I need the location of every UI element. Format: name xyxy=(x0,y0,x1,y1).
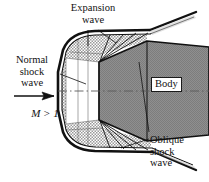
label-oblique-shock-line3: wave xyxy=(150,157,208,169)
label-oblique-shock-wave: Oblique shock wave xyxy=(150,134,208,169)
label-body: Body xyxy=(151,77,182,92)
label-mach-number: M > 1 xyxy=(22,108,68,120)
label-normal-shock-line1: Normal xyxy=(4,54,60,66)
label-normal-shock-line3: wave xyxy=(4,77,60,89)
label-oblique-shock-line2: shock xyxy=(150,146,208,158)
label-expansion-wave: Expansion wave xyxy=(59,2,127,25)
label-expansion-wave-line1: Expansion xyxy=(59,2,127,14)
label-oblique-shock-line1: Oblique xyxy=(150,134,208,146)
label-normal-shock-wave: Normal shock wave xyxy=(4,54,60,89)
label-expansion-wave-line2: wave xyxy=(59,14,127,26)
label-normal-shock-line2: shock xyxy=(4,66,60,78)
flow-direction-arrow xyxy=(14,92,54,100)
figure-supersonic-blunt-body: Expansion wave Normal shock wave M > 1 B… xyxy=(0,0,209,182)
